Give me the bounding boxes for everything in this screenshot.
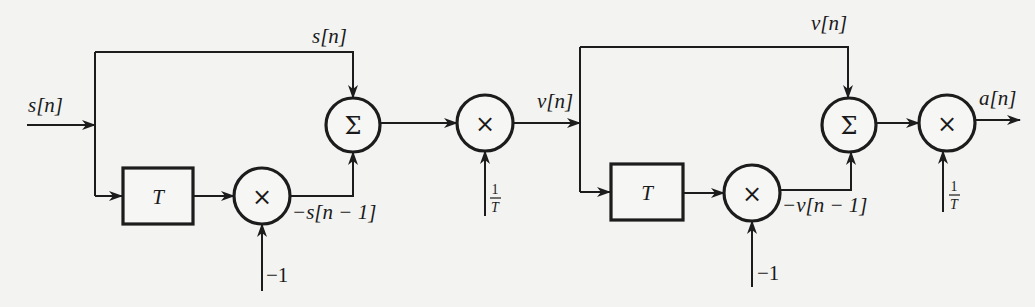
negate-gain-label-1: −1 bbox=[266, 263, 288, 287]
top-branch-label-1: s[n] bbox=[312, 24, 347, 48]
block-diagram: s[n] s[n] T × −1 −s[n − 1] Σ × 1 T bbox=[0, 0, 1035, 307]
feedback-label-1: −s[n − 1] bbox=[292, 200, 376, 224]
delay-label-1: T bbox=[152, 185, 165, 209]
feedback-label-2: −v[n − 1] bbox=[782, 193, 868, 217]
top-branch-label-2: v[n] bbox=[811, 11, 847, 35]
scale-gain-fraction-1: 1 T bbox=[490, 182, 501, 215]
intermediate-label: v[n] bbox=[537, 89, 573, 113]
multiply-icon: × bbox=[475, 110, 495, 138]
stage-2: v[n] T × −1 −v[n − 1] Σ × 1 T a[n] bbox=[580, 11, 1020, 287]
feedback-branch-1 bbox=[290, 152, 353, 196]
top-branch-2 bbox=[580, 47, 848, 98]
top-branch-1 bbox=[95, 52, 353, 98]
multiply-icon: × bbox=[252, 183, 272, 211]
negate-gain-label-2: −1 bbox=[757, 261, 779, 285]
sigma-icon: Σ bbox=[345, 112, 362, 140]
multiply-icon: × bbox=[742, 180, 762, 208]
svg-text:T: T bbox=[950, 197, 959, 212]
svg-text:1: 1 bbox=[951, 179, 958, 194]
stage-1: s[n] s[n] T × −1 −s[n − 1] Σ × 1 T bbox=[27, 24, 580, 291]
delay-label-2: T bbox=[641, 181, 654, 205]
sigma-icon: Σ bbox=[841, 112, 858, 140]
output-label: a[n] bbox=[979, 86, 1016, 110]
input-label: s[n] bbox=[28, 93, 63, 117]
scale-gain-fraction-2: 1 T bbox=[949, 179, 960, 212]
svg-text:T: T bbox=[491, 200, 500, 215]
svg-text:1: 1 bbox=[492, 182, 499, 197]
feedback-branch-2 bbox=[780, 152, 851, 190]
multiply-icon: × bbox=[937, 110, 957, 138]
